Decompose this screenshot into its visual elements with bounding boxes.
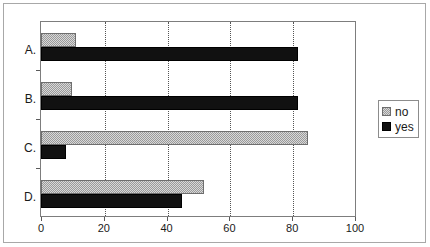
bar-a-no bbox=[41, 33, 76, 47]
x-axis-tick-mark bbox=[167, 217, 168, 221]
bar-d-no bbox=[41, 180, 204, 194]
x-axis-tick-mark bbox=[355, 217, 356, 221]
bar-b-yes bbox=[41, 96, 298, 110]
bar-a-yes bbox=[41, 47, 298, 61]
y-axis-category-label: C. bbox=[14, 141, 36, 155]
y-axis-category-label: B. bbox=[14, 92, 36, 106]
y-axis-tick-mark bbox=[36, 70, 40, 71]
x-axis-tick-label: 80 bbox=[286, 222, 298, 234]
x-axis-tick-label: 40 bbox=[160, 222, 172, 234]
legend-label-no: no bbox=[395, 106, 408, 118]
legend-item-no: no bbox=[382, 104, 414, 119]
legend-label-yes: yes bbox=[395, 121, 414, 133]
x-axis-tick-mark bbox=[104, 217, 105, 221]
bar-c-no bbox=[41, 131, 308, 145]
plot-area bbox=[40, 21, 356, 217]
bar-b-no bbox=[41, 82, 72, 96]
y-axis-tick-mark bbox=[36, 119, 40, 120]
y-axis-category-label: A. bbox=[14, 43, 36, 57]
x-axis-tick-mark bbox=[292, 217, 293, 221]
x-axis-tick-label: 20 bbox=[98, 222, 110, 234]
bar-c-yes bbox=[41, 145, 66, 159]
legend-item-yes: yes bbox=[382, 119, 414, 134]
y-axis-tick-mark bbox=[36, 168, 40, 169]
bar-d-yes bbox=[41, 194, 182, 208]
y-axis-category-label: D. bbox=[14, 190, 36, 204]
x-axis-tick-label: 100 bbox=[346, 222, 364, 234]
x-axis-tick-mark bbox=[229, 217, 230, 221]
x-axis-tick-label: 60 bbox=[223, 222, 235, 234]
black-swatch bbox=[382, 122, 391, 131]
chart-legend: no yes bbox=[378, 100, 419, 138]
chart-figure: no yes 020406080100A.B.C.D. bbox=[0, 0, 430, 247]
x-axis-tick-label: 0 bbox=[38, 222, 44, 234]
gray-hatched-swatch bbox=[382, 107, 391, 116]
bars-layer bbox=[41, 22, 355, 216]
x-axis-tick-mark bbox=[41, 217, 42, 221]
